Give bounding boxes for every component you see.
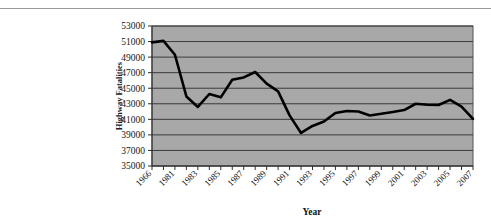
x-tick-label: 1985 xyxy=(202,168,222,188)
x-tick-label: 1981 xyxy=(157,168,177,188)
x-tick-label: 1993 xyxy=(294,168,314,188)
y-tick-label: 49000 xyxy=(121,53,145,63)
x-axis-title: Year xyxy=(303,207,323,217)
plot-area-background xyxy=(152,26,473,166)
y-tick-label: 37000 xyxy=(121,146,145,156)
x-tick-label: 2005 xyxy=(432,168,452,188)
chart-svg: 3500037000390004100043000450004700049000… xyxy=(0,10,491,222)
y-axis-ticks: 3500037000390004100043000450004700049000… xyxy=(121,21,152,171)
x-tick-label: 2003 xyxy=(409,168,429,188)
x-tick-label: 1999 xyxy=(363,168,383,188)
x-axis-ticks: 1966198119831985198719891991199319951997… xyxy=(134,166,475,188)
x-tick-label: 1987 xyxy=(225,168,245,188)
x-tick-label: 1997 xyxy=(340,168,360,188)
y-tick-label: 41000 xyxy=(121,115,145,125)
header-divider-rule xyxy=(0,8,491,9)
y-tick-label: 45000 xyxy=(121,84,145,94)
x-tick-label: 2007 xyxy=(455,168,475,188)
y-tick-label: 35000 xyxy=(121,161,145,171)
line-chart-figure: 3500037000390004100043000450004700049000… xyxy=(0,10,491,222)
y-tick-label: 51000 xyxy=(121,37,145,47)
y-tick-label: 43000 xyxy=(121,99,145,109)
x-tick-label: 1995 xyxy=(317,168,337,188)
y-tick-label: 47000 xyxy=(121,68,145,78)
x-tick-label: 1989 xyxy=(248,168,268,188)
x-tick-label: 1983 xyxy=(179,168,199,188)
y-tick-label: 39000 xyxy=(121,130,145,140)
chart-page: 3500037000390004100043000450004700049000… xyxy=(0,0,491,222)
x-tick-label: 1991 xyxy=(271,168,291,188)
y-axis-title: Highway Fatalities xyxy=(114,61,124,130)
y-tick-label: 53000 xyxy=(121,21,145,31)
x-tick-label: 2001 xyxy=(386,168,406,188)
